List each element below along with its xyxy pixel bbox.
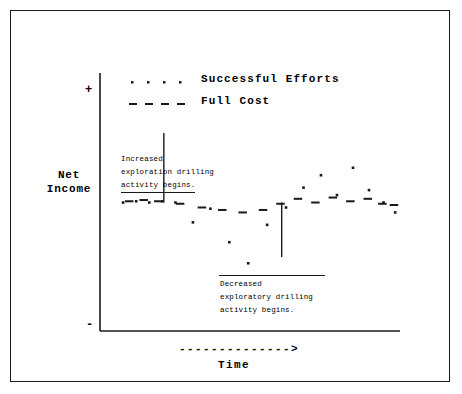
x-axis-arrow: -------------->: [179, 343, 299, 355]
data-point: [122, 201, 125, 204]
data-point: [378, 203, 387, 205]
data-point: [285, 206, 288, 209]
x-axis-label: Time: [218, 359, 250, 371]
data-point: [125, 200, 134, 202]
data-point: [135, 200, 138, 203]
data-point: [346, 200, 355, 202]
data-point: [228, 241, 231, 244]
data-point: [266, 224, 269, 227]
data-point: [154, 200, 163, 202]
annotation-1-line-3: activity begins.: [121, 180, 195, 193]
data-point: [218, 209, 227, 211]
annotation-2-overline: [219, 275, 325, 276]
annotation-2-line-1: Decreased: [220, 279, 262, 290]
annotation-2-line-2: exploratory drilling: [220, 292, 313, 303]
annotation-connectors: [164, 133, 282, 257]
series-full-cost: [125, 197, 398, 214]
data-point: [247, 262, 250, 265]
data-point: [259, 209, 268, 211]
data-point: [209, 207, 212, 210]
data-point: [192, 221, 195, 224]
data-point: [394, 211, 397, 214]
figure-border: Successful Efforts Full Cost + - Net Inc…: [10, 10, 450, 382]
data-point: [368, 189, 371, 192]
data-series-layer: [11, 11, 451, 383]
data-point: [311, 202, 320, 204]
data-point: [198, 206, 207, 208]
data-point: [148, 201, 151, 204]
data-point: [238, 211, 247, 213]
annotation-1-line-1: Increased: [121, 154, 163, 165]
annotation-2-line-3: activity begins.: [220, 305, 294, 316]
data-point: [276, 203, 285, 205]
data-point: [329, 197, 338, 199]
data-point: [302, 186, 305, 189]
annotation-1-line-2: exploration drilling: [121, 167, 214, 178]
data-point: [336, 194, 339, 197]
data-point: [176, 203, 185, 205]
data-point: [364, 198, 373, 200]
data-point: [139, 199, 148, 201]
data-point: [390, 204, 399, 206]
data-point: [294, 198, 303, 200]
data-point: [352, 167, 355, 170]
data-point: [320, 174, 323, 177]
